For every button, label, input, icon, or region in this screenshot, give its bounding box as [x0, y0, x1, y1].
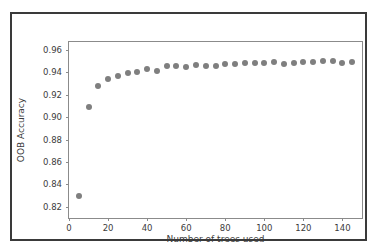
x-axis-tick	[303, 218, 304, 221]
scatter-point	[76, 193, 82, 199]
y-axis-tick-label: 0.84	[43, 179, 62, 189]
figure-canvas: OOB Accuracy 0204060801001201400.820.840…	[12, 14, 365, 239]
figure-border: OOB Accuracy 0204060801001201400.820.840…	[10, 12, 367, 241]
scatter-point	[154, 68, 160, 74]
y-axis-tick-label: 0.90	[43, 112, 62, 122]
scatter-point	[281, 61, 287, 67]
scatter-point	[291, 60, 297, 66]
x-axis-tick	[108, 218, 109, 221]
scatter-point	[213, 63, 219, 69]
scatter-point	[242, 60, 248, 66]
y-axis-tick-label: 0.94	[43, 67, 62, 77]
y-axis-label: OOB Accuracy	[15, 41, 27, 219]
x-axis-tick-label: 0	[66, 223, 71, 233]
scatter-point	[310, 59, 316, 65]
y-axis-tick	[66, 50, 69, 51]
scatter-point	[183, 64, 189, 70]
scatter-point	[232, 61, 238, 67]
y-axis-tick-label: 0.86	[43, 157, 62, 167]
x-axis-tick-label: 40	[142, 223, 153, 233]
y-axis-tick-label: 0.88	[43, 135, 62, 145]
scatter-point	[86, 104, 92, 110]
y-axis-tick	[66, 184, 69, 185]
x-axis-tick	[225, 218, 226, 221]
scatter-point	[320, 58, 326, 64]
scatter-point	[252, 60, 258, 66]
x-axis-tick-label: 100	[256, 223, 272, 233]
scatter-point	[173, 63, 179, 69]
y-axis-label-text: OOB Accuracy	[16, 98, 26, 162]
scatter-point	[222, 61, 228, 67]
scatter-point	[125, 70, 131, 76]
x-axis-tick-label: 80	[220, 223, 231, 233]
x-axis-label: Number of trees used	[68, 234, 363, 244]
scatter-point	[271, 59, 277, 65]
y-axis-tick	[66, 95, 69, 96]
x-axis-tick	[264, 218, 265, 221]
x-axis-tick-label: 60	[181, 223, 192, 233]
x-axis-tick-label: 120	[295, 223, 311, 233]
y-axis-tick-label: 0.96	[43, 45, 62, 55]
scatter-point	[203, 63, 209, 69]
scatter-series	[69, 42, 362, 218]
scatter-point	[339, 60, 345, 66]
scatter-point	[349, 59, 355, 65]
scatter-point	[164, 63, 170, 69]
y-axis-tick	[66, 72, 69, 73]
y-axis-tick	[66, 140, 69, 141]
x-axis-tick-label: 20	[103, 223, 114, 233]
y-axis-tick-label: 0.92	[43, 90, 62, 100]
scatter-point	[105, 76, 111, 82]
x-axis-tick-label: 140	[334, 223, 350, 233]
scatter-point	[300, 59, 306, 65]
scatter-point	[144, 66, 150, 72]
x-axis-tick	[147, 218, 148, 221]
x-axis-tick	[69, 218, 70, 221]
scatter-point	[95, 83, 101, 89]
y-axis-tick	[66, 162, 69, 163]
scatter-point	[330, 58, 336, 64]
scatter-point	[115, 73, 121, 79]
scatter-point	[193, 62, 199, 68]
x-axis-tick	[342, 218, 343, 221]
plot-area: 0204060801001201400.820.840.860.880.900.…	[68, 41, 363, 219]
scatter-point	[134, 69, 140, 75]
y-axis-tick	[66, 117, 69, 118]
y-axis-tick-label: 0.82	[43, 202, 62, 212]
scatter-point	[261, 60, 267, 66]
x-axis-tick	[186, 218, 187, 221]
x-axis-label-text: Number of trees used	[167, 234, 265, 244]
y-axis-tick	[66, 207, 69, 208]
